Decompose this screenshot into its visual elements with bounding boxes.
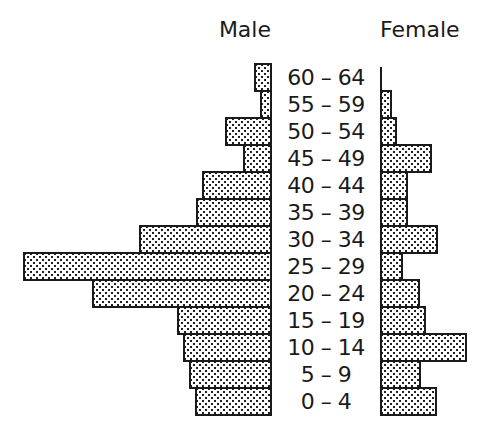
female-bar: [380, 360, 421, 389]
male-bar: [225, 117, 272, 146]
female-bar: [380, 198, 408, 227]
female-bar: [380, 333, 467, 362]
male-bar: [196, 198, 272, 227]
male-bar: [23, 252, 272, 281]
age-group-label: 5 – 9: [272, 361, 380, 388]
female-bar: [380, 117, 397, 146]
age-group-label: 10 – 14: [272, 334, 380, 361]
female-bar: [380, 387, 437, 416]
age-group-label: 40 – 44: [272, 172, 380, 199]
age-group-label: 45 – 49: [272, 145, 380, 172]
female-bar: [380, 144, 432, 173]
male-bar: [243, 144, 272, 173]
female-bar: [380, 252, 403, 281]
age-group-label: 55 – 59: [272, 91, 380, 118]
male-bar: [139, 225, 272, 254]
age-group-label: 30 – 34: [272, 226, 380, 253]
age-group-label: 35 – 39: [272, 199, 380, 226]
male-bar: [92, 279, 272, 308]
female-header: Female: [380, 17, 460, 43]
male-header: Male: [219, 17, 271, 43]
age-group-label: 60 – 64: [272, 64, 380, 91]
female-bar: [380, 90, 392, 119]
male-bar: [183, 333, 272, 362]
female-bar: [380, 225, 438, 254]
male-bar: [202, 171, 272, 200]
age-group-label: 0 – 4: [272, 388, 380, 415]
age-group-label: 15 – 19: [272, 307, 380, 334]
age-group-label: 20 – 24: [272, 280, 380, 307]
male-bar: [195, 387, 272, 416]
age-group-label: 25 – 29: [272, 253, 380, 280]
female-bar: [380, 279, 420, 308]
male-bar: [177, 306, 272, 335]
male-bar: [189, 360, 272, 389]
female-bar: [380, 306, 426, 335]
age-group-label: 50 – 54: [272, 118, 380, 145]
male-bar: [254, 63, 272, 92]
male-bar: [260, 90, 272, 119]
female-bar: [380, 171, 408, 200]
